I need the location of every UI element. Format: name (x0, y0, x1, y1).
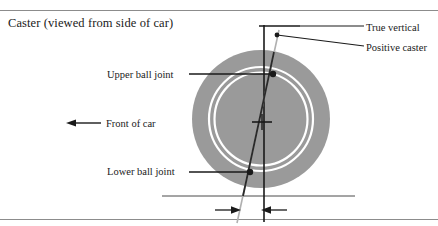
positive-caster-label: Positive caster (366, 42, 427, 53)
tire-disc (192, 50, 330, 188)
upper-ball-joint-label: Upper ball joint (107, 69, 174, 80)
front-of-car-label: Front of car (106, 118, 156, 129)
true-vertical-label: True vertical (366, 22, 420, 33)
upper-ball-joint-marker (270, 71, 276, 77)
caster-offset-right-arrow-head (261, 206, 271, 214)
positive-caster-leader (277, 35, 364, 46)
front-of-car-arrow-head (66, 119, 76, 126)
caster-diagram-figure: Caster (viewed from side of car) (0, 0, 438, 226)
lower-ball-joint-label: Lower ball joint (107, 166, 175, 177)
lower-ball-joint-marker (247, 169, 253, 175)
diagram-canvas (0, 0, 438, 226)
